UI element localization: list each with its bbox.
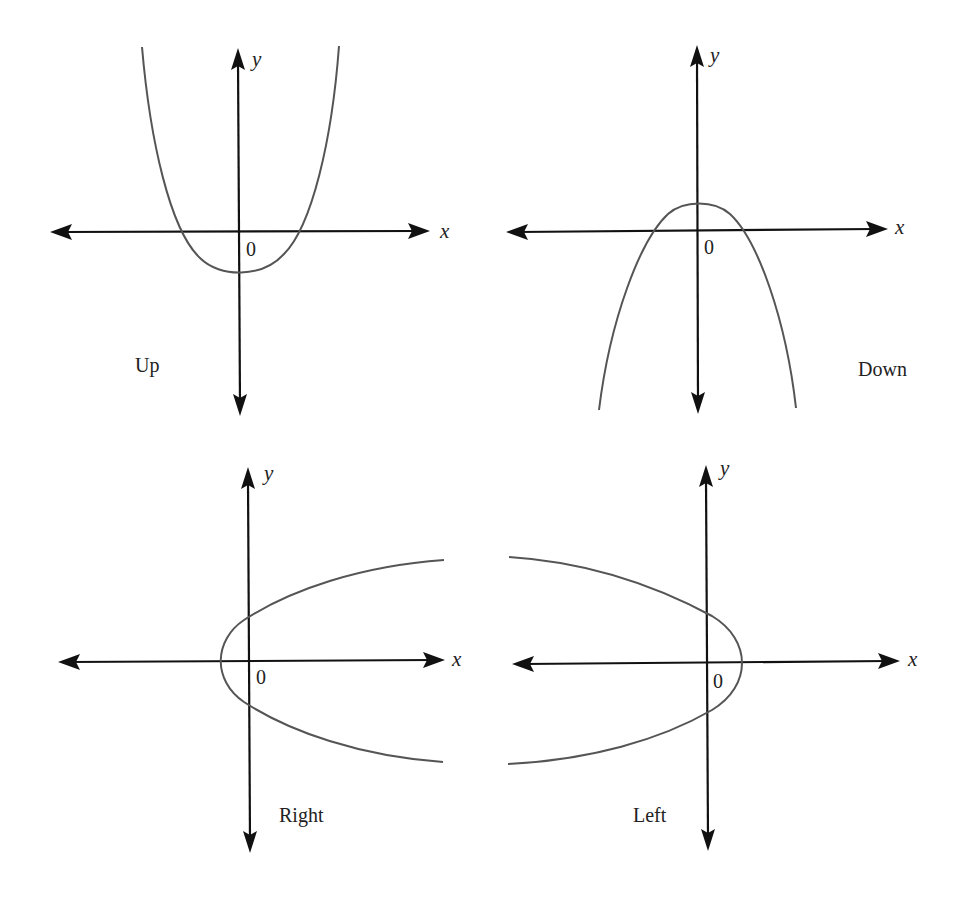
y-axis [706, 478, 708, 838]
origin-label: 0 [713, 670, 723, 692]
y-axis [248, 480, 250, 840]
panel-label-down: Down [858, 358, 907, 380]
panel-right: y x 0 Right [58, 461, 462, 853]
y-axis [697, 58, 698, 402]
x-axis [70, 660, 433, 662]
origin-label: 0 [246, 238, 256, 260]
panel-down: y x 0 Down [506, 43, 907, 414]
y-axis-label: y [262, 461, 274, 485]
y-axis-label: y [718, 456, 730, 480]
y-axis-label: y [708, 43, 720, 67]
parabola-up-curve [142, 46, 339, 273]
panel-up: y x 0 Up [50, 46, 450, 416]
x-axis-label: x [451, 647, 462, 671]
panel-label-up: Up [135, 354, 159, 377]
panel-label-right: Right [279, 804, 324, 827]
x-axis-label: x [439, 219, 450, 243]
origin-label: 0 [256, 666, 266, 688]
y-axis-label: y [250, 47, 262, 71]
panel-label-left: Left [633, 804, 667, 826]
panel-left: y x 0 Left [508, 456, 918, 851]
origin-label: 0 [704, 236, 714, 258]
parabola-diagram: y x 0 Up y x 0 Down y x 0 Right [0, 0, 969, 900]
x-axis-label: x [907, 647, 918, 671]
y-axis [238, 60, 240, 403]
x-axis-label: x [894, 215, 905, 239]
